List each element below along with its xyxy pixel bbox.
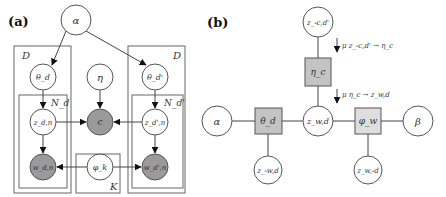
svg-text:z_w,-d: z_w,-d [356, 167, 379, 175]
node-alpha-b: α [202, 106, 232, 136]
node-z-minus-c-dprime: z_-c,d' [303, 7, 333, 37]
svg-text:θ_d: θ_d [260, 116, 276, 127]
svg-text:θ_d': θ_d' [147, 73, 163, 82]
factor-eta-c: η_c [305, 58, 331, 86]
svg-text:α: α [214, 116, 221, 127]
svg-text:c: c [97, 117, 102, 127]
edge-alpha-theta-dprime [86, 31, 146, 65]
plate-topics-label: K [109, 181, 118, 192]
svg-text:z_d,n: z_d,n [33, 119, 53, 127]
node-w-dn-observed: w_d,n [30, 154, 56, 180]
plate-right-docs-label: D [172, 50, 181, 61]
message-label-1: μ z_-c,d' → η_c [342, 42, 393, 50]
node-phi-k: φ_k [87, 154, 113, 180]
svg-text:θ_d: θ_d [36, 73, 50, 82]
plate-right-words-label: N_d' [163, 98, 185, 109]
svg-text:α: α [73, 15, 80, 26]
figure-canvas: (a) D N_d D N_d' K α θ_d [0, 0, 446, 197]
panel-b-label: (b) [207, 15, 228, 30]
node-theta-dprime: θ_d' [142, 64, 168, 90]
svg-text:η: η [97, 72, 103, 83]
node-z-dprime-n: z_d',n [142, 109, 168, 135]
svg-text:β: β [414, 116, 421, 127]
node-alpha: α [61, 5, 91, 35]
svg-text:φ_w: φ_w [359, 116, 378, 127]
svg-text:z_w,d: z_w,d [306, 117, 329, 126]
svg-text:φ_k: φ_k [93, 163, 108, 172]
node-beta: β [403, 106, 433, 136]
svg-text:w_d',n: w_d',n [144, 164, 167, 172]
node-c-observed: c [87, 109, 113, 135]
node-eta: η [87, 64, 113, 90]
panel-a: (a) D N_d D N_d' K α θ_d [8, 5, 185, 193]
factor-theta-d: θ_d [255, 108, 282, 134]
message-label-2: μ η_c → z_w,d [342, 91, 390, 99]
plate-left-words-label: N_d [50, 98, 69, 109]
node-w-dprime-n-observed: w_d',n [142, 154, 168, 180]
plate-left-docs-label: D [21, 50, 30, 61]
svg-text:z_-c,d': z_-c,d' [306, 19, 329, 27]
factor-phi-w: φ_w [355, 108, 381, 134]
node-z-wd: z_w,d [303, 106, 333, 136]
panel-a-label: (a) [8, 14, 29, 29]
node-z-minus-w-d: z_-w,d [254, 156, 282, 184]
svg-text:η_c: η_c [311, 67, 326, 78]
node-z-w-minus-d: z_w,-d [354, 156, 382, 184]
svg-text:z_d',n: z_d',n [144, 119, 166, 127]
svg-text:z_-w,d: z_-w,d [256, 167, 279, 175]
edge-alpha-theta-d [52, 31, 66, 65]
node-theta-d: θ_d [30, 64, 56, 90]
svg-text:w_d,n: w_d,n [33, 164, 54, 172]
panel-b: (b) μ z_-c,d' → η_c μ η_c → z_w,d z_-c,d… [202, 7, 433, 184]
node-z-dn: z_d,n [30, 109, 56, 135]
